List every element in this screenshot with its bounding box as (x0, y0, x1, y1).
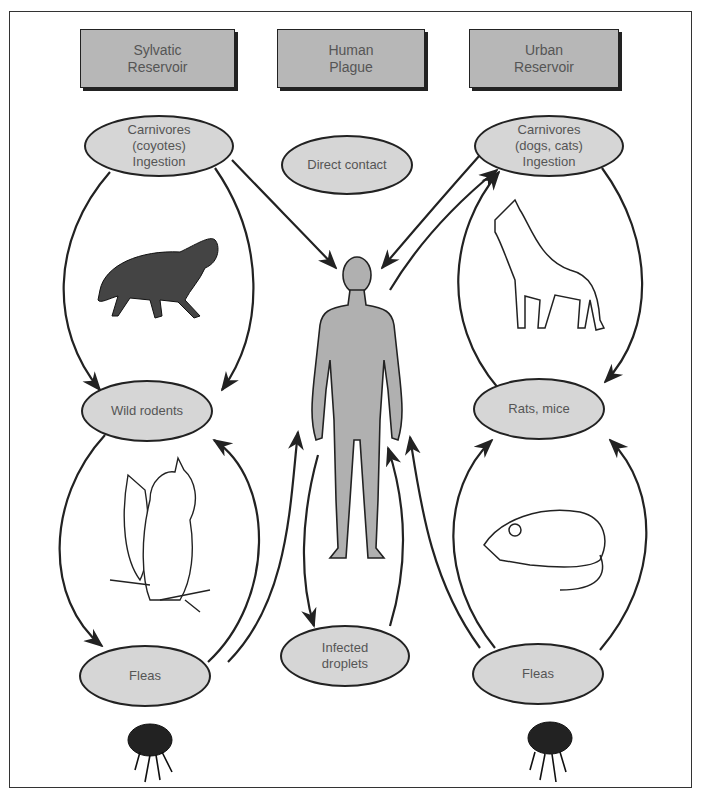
edge-droplets-to-human (388, 448, 403, 626)
header-human-plague: Human Plague (277, 29, 425, 88)
node-wild-rodents: Wild rodents (81, 380, 213, 442)
node-fleas-urban: Fleas (472, 643, 604, 705)
edge-carnivores-to-rodents-right (215, 168, 253, 390)
node-carnivores-coyotes: Carnivores (coyotes) Ingestion (84, 115, 234, 177)
header-urban-reservoir: Urban Reservoir (469, 29, 619, 88)
edge-urban-fleas-to-rats-right (600, 440, 646, 650)
human-figure-icon (312, 257, 402, 558)
header-sylvatic-reservoir: Sylvatic Reservoir (80, 29, 235, 88)
edge-rodents-to-fleas (60, 435, 105, 646)
edge-fleas-to-rodents (208, 440, 259, 662)
coyote-icon (98, 239, 218, 318)
node-fleas-sylvatic: Fleas (79, 645, 211, 707)
node-direct-contact: Direct contact (281, 135, 413, 195)
dog-icon (495, 200, 604, 330)
squirrel-icon (110, 458, 210, 612)
node-infected-droplets: Infected droplets (280, 625, 410, 687)
node-rats-mice: Rats, mice (473, 378, 605, 440)
flea-icon-left (128, 724, 172, 782)
edge-dogcat-to-rats (602, 168, 642, 382)
edge-human-to-dogcat (390, 170, 497, 290)
edge-human-to-droplets (304, 455, 318, 626)
flea-icon-right (528, 722, 572, 782)
rat-icon (484, 510, 605, 590)
node-carnivores-dogs-cats: Carnivores (dogs, cats) Ingestion (474, 115, 624, 177)
edge-rats-to-dogcat (458, 172, 499, 388)
